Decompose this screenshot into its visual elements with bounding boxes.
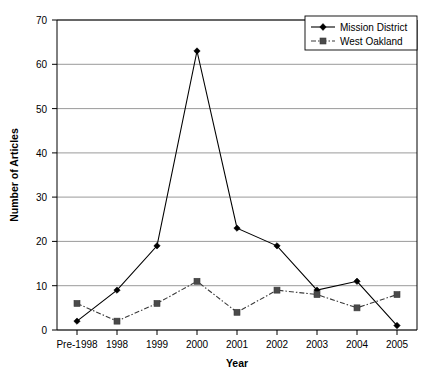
x-tick-label-1998: 1998	[106, 339, 129, 350]
data-series-layer	[74, 48, 400, 329]
legend-label-mission-district: Mission District	[340, 22, 407, 33]
y-tick-label-50: 50	[36, 104, 48, 115]
y-axis-ticks	[52, 20, 57, 330]
x-tick-label-2001: 2001	[226, 339, 249, 350]
data-point	[114, 318, 120, 324]
y-tick-label-10: 10	[36, 281, 48, 292]
y-tick-labels: 0 10 20 30 40 50 60 70	[36, 15, 48, 336]
series-mission-district	[74, 48, 400, 329]
data-point	[234, 225, 240, 231]
x-axis-title: Year	[226, 357, 248, 369]
data-point	[394, 292, 400, 298]
y-tick-label-0: 0	[41, 325, 47, 336]
chart-container: 0 10 20 30 40 50 60 70 Pre-1998 1998 199…	[0, 0, 435, 374]
data-point	[194, 278, 200, 284]
data-point	[234, 309, 240, 315]
data-point	[194, 48, 200, 54]
y-tick-label-30: 30	[36, 192, 48, 203]
x-tick-label-1999: 1999	[146, 339, 169, 350]
data-point	[314, 292, 320, 298]
x-tick-label-2004: 2004	[346, 339, 369, 350]
data-point	[74, 300, 80, 306]
x-tick-labels: Pre-1998 1998 1999 2000 2001 2002 2003 2…	[56, 339, 408, 350]
y-axis-title: Number of Articles	[8, 128, 20, 222]
legend-swatch-marker-west-oakland	[320, 38, 326, 44]
x-axis-ticks	[77, 330, 397, 335]
y-tick-label-70: 70	[36, 15, 48, 26]
series-west-oakland	[74, 278, 400, 324]
line-chart: 0 10 20 30 40 50 60 70 Pre-1998 1998 199…	[0, 0, 435, 374]
y-tick-label-40: 40	[36, 148, 48, 159]
x-tick-label-2005: 2005	[386, 339, 409, 350]
legend-label-west-oakland: West Oakland	[340, 36, 403, 47]
x-tick-label-2000: 2000	[186, 339, 209, 350]
plot-frame	[57, 20, 417, 330]
data-point	[154, 300, 160, 306]
gridlines	[57, 20, 417, 330]
data-point	[354, 305, 360, 311]
y-tick-label-20: 20	[36, 236, 48, 247]
data-point	[274, 287, 280, 293]
legend: Mission District West Oakland	[305, 16, 417, 50]
x-tick-label-2003: 2003	[306, 339, 329, 350]
x-tick-label-2002: 2002	[266, 339, 289, 350]
y-tick-label-60: 60	[36, 59, 48, 70]
series-line	[77, 51, 397, 326]
x-tick-label-pre-1998: Pre-1998	[56, 339, 98, 350]
